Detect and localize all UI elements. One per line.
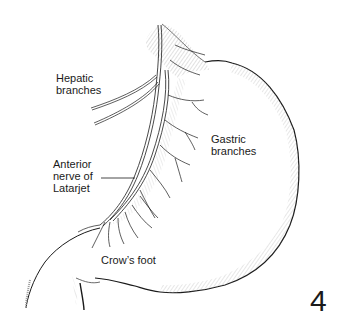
stomach-nerve-diagram: Hepatic branches Gastric branches Anteri…: [0, 0, 340, 331]
stomach-illustration: [0, 0, 340, 331]
esophagus: [146, 24, 210, 78]
label-crows-foot: Crow’s foot: [101, 254, 156, 266]
label-hepatic-branches: Hepatic branches: [56, 72, 101, 96]
figure-number: 4: [310, 286, 327, 316]
label-gastric-branches: Gastric branches: [211, 133, 256, 157]
crows-foot: [78, 196, 158, 248]
anterior-vagal-trunk: [100, 25, 169, 226]
label-anterior-nerve-of-latarjet: Anterior nerve of Latarjet: [53, 158, 93, 194]
